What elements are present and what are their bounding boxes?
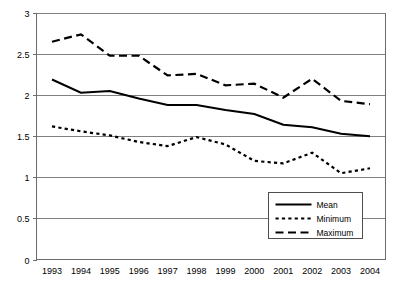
- y-axis-labels: 32.521.510.50: [17, 9, 30, 266]
- x-axis-tick-label: 1996: [129, 266, 149, 276]
- line-chart: 32.521.510.50 19931994199519961997199819…: [0, 0, 401, 287]
- legend-label-maximum: Maximum: [317, 228, 354, 238]
- axis-tickmarks: [33, 14, 37, 261]
- x-axis-tick-label: 2004: [360, 266, 380, 276]
- legend-label-minimum: Minimum: [317, 214, 351, 224]
- y-axis-tick-label: 3: [24, 9, 29, 19]
- series-line-maximum: [52, 34, 370, 104]
- series-line-mean: [52, 80, 370, 137]
- x-axis-tick-label: 1994: [71, 266, 91, 276]
- gridlines: [37, 14, 386, 219]
- y-axis-tick-label: 0.5: [17, 214, 30, 224]
- legend-label-mean: Mean: [317, 200, 339, 210]
- y-axis-tick-label: 1.5: [17, 132, 30, 142]
- x-axis-tick-label: 1999: [215, 266, 235, 276]
- x-axis-labels: 1993199419951996199719981999200020012002…: [42, 266, 380, 276]
- x-axis-tick-label: 1995: [100, 266, 120, 276]
- y-axis-tick-label: 1: [24, 173, 29, 183]
- data-series: [52, 34, 370, 173]
- chart-canvas: 32.521.510.50 19931994199519961997199819…: [0, 0, 401, 287]
- y-axis-tick-label: 2: [24, 91, 29, 101]
- chart-legend: MeanMinimumMaximum: [269, 193, 363, 239]
- x-axis-tick-label: 2001: [273, 266, 293, 276]
- x-axis-tick-label: 1997: [158, 266, 178, 276]
- series-line-minimum: [52, 126, 370, 173]
- x-axis-tick-label: 2003: [331, 266, 351, 276]
- x-axis-tick-label: 2002: [302, 266, 322, 276]
- x-axis-tick-label: 1993: [42, 266, 62, 276]
- x-axis-tick-label: 2000: [244, 266, 264, 276]
- x-axis-tick-label: 1998: [187, 266, 207, 276]
- y-axis-tick-label: 2.5: [17, 50, 30, 60]
- y-axis-tick-label: 0: [24, 256, 29, 266]
